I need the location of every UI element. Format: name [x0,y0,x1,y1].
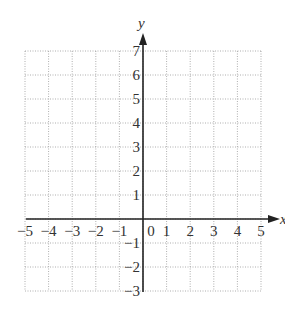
y-tick-label: 7 [133,43,141,59]
coordinate-plane: x y −5−4−3−2−1012345 7654321−1−2−3 [0,0,285,310]
y-tick-label: 4 [133,115,141,131]
x-tick-labels: −5−4−3−2−1012345 [17,223,265,239]
x-tick-label: −2 [88,223,104,239]
y-tick-label: −3 [124,283,140,299]
y-tick-label: −2 [124,259,140,275]
y-axis-arrow-icon [139,33,147,45]
y-tick-labels: 7654321−1−2−3 [124,43,140,299]
x-tick-label: 4 [234,223,242,239]
x-axis-label: x [279,211,285,227]
axes [26,33,280,292]
y-tick-label: 6 [133,67,141,83]
y-tick-label: 3 [133,139,141,155]
x-axis-arrow-icon [268,215,280,223]
x-tick-label: 2 [186,223,194,239]
x-tick-label: 3 [210,223,218,239]
x-tick-label: 0 [147,223,155,239]
x-tick-label: −4 [41,223,57,239]
y-tick-label: 1 [133,187,141,203]
y-axis-label: y [136,15,145,31]
y-tick-label: 2 [133,163,141,179]
x-tick-label: −3 [64,223,80,239]
y-tick-label: 5 [133,91,141,107]
x-tick-label: 5 [257,223,265,239]
x-tick-label: 1 [163,223,171,239]
y-tick-label: −1 [124,235,140,251]
x-tick-label: −5 [17,223,33,239]
